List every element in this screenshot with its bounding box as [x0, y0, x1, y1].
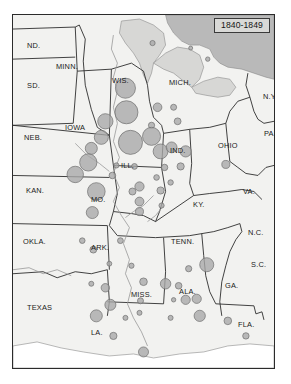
symbol-circle — [135, 182, 144, 191]
symbol-circle — [89, 281, 94, 286]
state-label: PA. — [264, 129, 275, 138]
symbol-circle — [114, 163, 119, 168]
date-range-badge: 1840-1849 — [214, 18, 270, 33]
state-label: WIS. — [112, 76, 129, 85]
symbol-circle — [105, 299, 116, 310]
symbol-circle — [107, 261, 112, 266]
symbol-circle — [129, 263, 134, 268]
symbol-circle — [85, 142, 97, 154]
state-label: KAN. — [26, 186, 44, 195]
symbol-circle — [135, 208, 143, 216]
symbol-circle — [189, 46, 193, 50]
map-frame: ND.SD.NEB.KAN.OKLA.TEXASMINN.IOWAMO.ARK.… — [12, 14, 275, 369]
map-canvas — [13, 15, 274, 368]
symbol-circle — [168, 315, 173, 320]
symbol-circle — [101, 284, 109, 292]
state-label: ND. — [27, 41, 40, 50]
state-label: N.Y. — [263, 92, 275, 101]
symbol-circle — [160, 279, 170, 289]
symbol-circle — [138, 347, 148, 357]
symbol-circle — [80, 154, 97, 171]
state-label: ARK. — [91, 243, 109, 252]
proportional-symbol-map-figure: ND.SD.NEB.KAN.OKLA.TEXASMINN.IOWAMO.ARK.… — [0, 0, 291, 384]
symbol-circle — [150, 40, 155, 45]
symbol-circle — [137, 310, 142, 315]
symbol-circle — [154, 175, 160, 181]
state-label: LA. — [91, 328, 103, 337]
state-label: MINN. — [56, 62, 78, 71]
state-label: N.C. — [248, 228, 264, 237]
symbol-circle — [171, 104, 177, 110]
state-label: KY. — [193, 200, 205, 209]
symbol-circle — [123, 315, 128, 320]
state-label: S.C. — [251, 260, 266, 269]
state-label: ALA. — [179, 287, 196, 296]
symbol-circle — [177, 163, 184, 170]
symbol-circle — [115, 101, 138, 124]
state-label: GA. — [225, 281, 238, 290]
symbol-circle — [224, 317, 232, 325]
state-label: IOWA — [65, 123, 85, 132]
symbol-circle — [200, 258, 214, 272]
symbol-circle — [222, 160, 230, 168]
symbol-circle — [109, 172, 116, 179]
symbol-circle — [79, 238, 85, 244]
state-label: OHIO — [218, 141, 238, 150]
symbol-circle — [171, 298, 175, 302]
symbol-circle — [153, 103, 162, 112]
state-label: MO. — [91, 195, 106, 204]
symbol-circle — [86, 207, 98, 219]
symbol-circle — [110, 332, 117, 339]
symbol-circle — [194, 310, 205, 321]
state-label: SD. — [27, 81, 40, 90]
symbol-circle — [181, 295, 190, 304]
symbol-circle — [118, 238, 124, 244]
state-label: TEXAS — [27, 303, 52, 312]
symbol-circle — [161, 164, 167, 170]
symbol-circle — [159, 203, 164, 208]
symbol-circle — [98, 114, 113, 129]
state-label: VA. — [243, 187, 255, 196]
symbol-circle — [67, 166, 83, 182]
symbol-circle — [135, 197, 144, 206]
symbol-circle — [153, 144, 168, 159]
state-label: TENN. — [171, 237, 194, 246]
state-label: IND. — [170, 146, 186, 155]
symbol-circle — [94, 130, 108, 144]
symbol-circle — [174, 118, 181, 125]
state-label: OKLA. — [23, 237, 46, 246]
symbol-circle — [168, 180, 173, 185]
symbol-circle — [206, 57, 210, 61]
water-bodies — [13, 15, 274, 368]
symbol-circle — [157, 187, 164, 194]
symbol-circle — [129, 188, 136, 195]
state-label: MISS. — [131, 290, 152, 299]
state-label: FLA. — [238, 320, 254, 329]
symbol-circle — [186, 266, 192, 272]
symbol-circle — [90, 310, 102, 322]
symbol-circle — [140, 278, 148, 286]
symbol-circle — [142, 127, 160, 145]
symbol-circle — [118, 130, 142, 154]
symbol-circle — [243, 333, 249, 339]
state-label: ILL. — [121, 161, 134, 170]
state-label: MICH. — [169, 78, 191, 87]
state-label: NEB. — [24, 133, 42, 142]
